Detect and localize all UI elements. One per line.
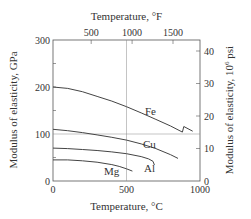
y-axis-title: Modulus of elasticity, GPa — [7, 51, 19, 168]
series-mg-line — [53, 160, 132, 171]
y-tick-0: 0 — [45, 176, 50, 187]
series-label-al: Al — [144, 162, 155, 174]
y-tick-100: 100 — [35, 129, 50, 140]
series-label-fe: Fe — [145, 105, 156, 117]
series-label-cu: Cu — [143, 138, 156, 150]
series-al-line — [53, 148, 154, 165]
y-tick-200: 200 — [35, 82, 50, 93]
x-axis-title: Temperature, °C — [90, 200, 163, 212]
y2-tick-20: 20 — [204, 111, 214, 122]
x2-tick-1000: 1000 — [122, 27, 142, 38]
series-label-mg: Mg — [104, 165, 120, 177]
x-tick-500: 500 — [119, 184, 134, 195]
series-cu-line — [53, 129, 178, 158]
y2-tick-40: 40 — [204, 46, 214, 57]
top-axis-ticks — [91, 40, 173, 44]
modulus-vs-temperature-chart: Fe Cu Al Mg 300 200 100 0 0 500 1000 500… — [0, 0, 251, 219]
left-axis-ticks — [53, 64, 56, 158]
x2-tick-1500: 1500 — [163, 27, 183, 38]
y2-tick-30: 30 — [204, 78, 214, 89]
y2-tick-0: 0 — [204, 176, 209, 187]
x2-tick-500: 500 — [84, 27, 99, 38]
series-fe-line — [53, 87, 193, 132]
x2-axis-title: Temperature, °F — [91, 10, 162, 22]
y2-tick-10: 10 — [204, 143, 214, 154]
y-tick-300: 300 — [35, 35, 50, 46]
y2-axis-title: Modulus of elasticity, 106 psi — [223, 46, 235, 174]
x-tick-0: 0 — [51, 184, 56, 195]
